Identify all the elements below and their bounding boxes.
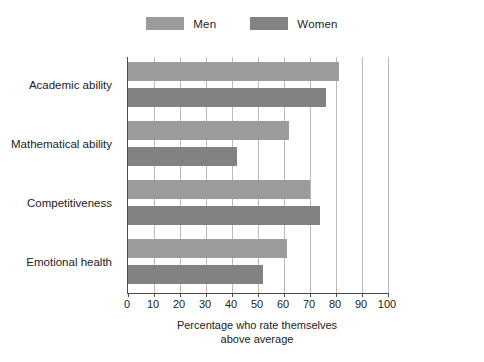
x-tick-label-100: 100 — [378, 298, 396, 310]
bar-women-competitiveness — [128, 206, 320, 225]
x-axis-title-line-2: above average — [127, 333, 387, 347]
x-tick-label-20: 20 — [173, 298, 185, 310]
x-tick-mark-100 — [388, 293, 389, 297]
bar-women-emotional-health — [128, 265, 263, 284]
x-axis-tick-labels: 0102030405060708090100 — [127, 298, 387, 314]
y-axis-label-mathematical-ability: Mathematical ability — [11, 138, 112, 150]
chart-legend: Men Women — [0, 17, 484, 30]
bar-men-academic-ability — [128, 62, 339, 81]
x-tick-label-40: 40 — [225, 298, 237, 310]
x-tick-label-60: 60 — [277, 298, 289, 310]
y-axis-label-academic-ability: Academic ability — [29, 79, 112, 91]
bar-chart: Men Women Academic abilityMathematical a… — [0, 0, 484, 362]
legend-entry-women: Women — [250, 17, 337, 30]
bars-layer — [128, 57, 388, 293]
x-tick-mark-30 — [206, 293, 207, 297]
x-axis-title: Percentage who rate themselves above ave… — [127, 319, 387, 346]
x-tick-mark-90 — [362, 293, 363, 297]
x-tick-label-30: 30 — [199, 298, 211, 310]
x-tick-mark-0 — [128, 293, 129, 297]
bar-women-academic-ability — [128, 88, 326, 107]
x-tick-mark-40 — [232, 293, 233, 297]
y-axis-category-labels: Academic abilityMathematical abilityComp… — [0, 57, 120, 293]
legend-label-men: Men — [193, 18, 216, 30]
x-tick-mark-20 — [180, 293, 181, 297]
y-axis-label-competitiveness: Competitiveness — [27, 197, 112, 209]
legend-entry-men: Men — [146, 17, 216, 30]
y-axis-label-emotional-health: Emotional health — [26, 256, 112, 268]
bar-men-competitiveness — [128, 180, 310, 199]
bar-women-mathematical-ability — [128, 147, 237, 166]
bar-men-mathematical-ability — [128, 121, 289, 140]
x-tick-mark-50 — [258, 293, 259, 297]
x-tick-label-70: 70 — [303, 298, 315, 310]
legend-swatch-men — [146, 17, 184, 30]
x-tick-label-50: 50 — [251, 298, 263, 310]
x-tick-label-80: 80 — [329, 298, 341, 310]
x-tick-label-90: 90 — [355, 298, 367, 310]
x-tick-label-10: 10 — [147, 298, 159, 310]
plot-area — [127, 57, 388, 294]
legend-label-women: Women — [297, 18, 337, 30]
x-axis-title-line-1: Percentage who rate themselves — [127, 319, 387, 333]
x-tick-label-0: 0 — [124, 298, 130, 310]
x-tick-mark-10 — [154, 293, 155, 297]
gridline-100 — [388, 57, 389, 293]
x-tick-mark-60 — [284, 293, 285, 297]
x-tick-mark-70 — [310, 293, 311, 297]
x-tick-mark-80 — [336, 293, 337, 297]
bar-men-emotional-health — [128, 239, 287, 258]
legend-swatch-women — [250, 17, 288, 30]
